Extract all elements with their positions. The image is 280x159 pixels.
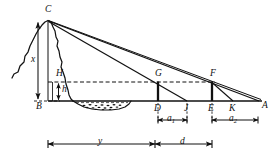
measure-label-a1: a1 [167,114,175,124]
point-label-C: C [45,5,51,15]
point-label-H: H [56,69,63,79]
terrain-group [12,21,131,111]
point-label-J: J [184,104,188,114]
sight-line-C-to-J [49,22,188,102]
diagram-canvas: C B H G F D J E K A x h a1 a2 y d [0,0,280,159]
point-label-E: E [208,104,214,114]
measure-label-d: d [180,137,185,147]
point-label-F: F [210,69,216,79]
measure-label-a2: a2 [229,114,237,124]
point-label-A: A [262,101,268,111]
point-label-B: B [36,102,42,112]
measure-label-h: h [62,85,67,95]
sight-line-C-to-A [49,21,260,101]
diagram-vector-layer [0,0,280,159]
measure-label-a2-sub: 2 [234,117,237,124]
measure-label-a1-sub: 1 [172,117,175,124]
dimension-bars-group [48,103,258,148]
measure-label-x: x [31,55,35,65]
point-label-G: G [155,69,162,79]
point-label-D: D [154,104,161,114]
measure-label-y: y [98,137,102,147]
sight-line-C-upper [49,21,262,100]
